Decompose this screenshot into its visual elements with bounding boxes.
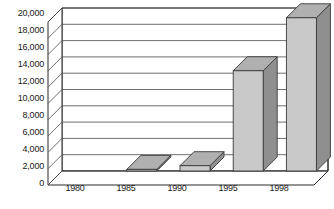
bar-1995 [233,57,277,171]
bar-side-face [263,57,277,171]
y-axis-tick-label: 12,000 [18,76,44,86]
x-axis-tick-label-1998: 1998 [269,183,288,193]
bar-chart: 20,000 18,000 16,000 14,000 12,000 10,00… [0,0,334,209]
plot-area [48,8,328,180]
bar-front-face [233,71,263,171]
bar-1998 [286,4,330,171]
bar-front-face [127,169,157,171]
y-axis-tick-labels: 20,000 18,000 16,000 14,000 12,000 10,00… [0,0,46,209]
y-axis-tick-label: 14,000 [18,59,44,69]
x-axis-tick-label-1995: 1995 [218,183,237,193]
y-axis-tick-label: 10,000 [18,93,44,103]
y-axis-tick-label: 0 [39,178,44,188]
x-axis-tick-label-1990: 1990 [167,183,186,193]
x-axis-tick-label-1980: 1980 [65,183,84,193]
bar-front-face [180,166,210,171]
y-axis-tick-label: 6,000 [22,127,44,137]
bar-side-face [316,4,330,171]
bar-front-face [286,18,316,171]
y-axis-tick-label: 2,000 [22,161,44,171]
y-axis-tick-label: 18,000 [18,25,44,35]
x-axis-tick-label-1985: 1985 [116,183,135,193]
y-axis-tick-label: 4,000 [22,144,44,154]
plot-svg [48,8,328,186]
y-axis-tick-label: 8,000 [22,110,44,120]
y-axis-tick-label: 16,000 [18,42,44,52]
x-axis-tick-labels: 1980 1985 1990 1995 1998 [48,183,328,205]
y-axis-tick-label: 20,000 [18,8,44,18]
